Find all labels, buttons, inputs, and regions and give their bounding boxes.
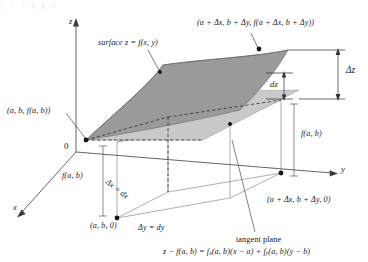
- equation-rhs: (a, b)(y − b): [268, 247, 310, 256]
- far-corner-label: (a + Δx, b + Δy, f(a + Δx, b + Δy)): [197, 19, 314, 28]
- base-near-label: (a, b, 0): [90, 222, 117, 231]
- x-axis-arrowhead: [17, 209, 26, 217]
- point-surface-sample: [158, 70, 162, 74]
- delta-y-label: Δy = dy: [138, 224, 165, 233]
- dz-arrow-up: [282, 71, 286, 78]
- equation-lhs: z − f(a, b) = f: [163, 247, 209, 256]
- y-axis-label: y: [341, 165, 345, 174]
- y-axis-arrowhead: [329, 170, 338, 176]
- point-base-far: [279, 171, 284, 176]
- z-axis-label: z: [69, 17, 72, 26]
- near-corner-label: (a, b, f(a, b)): [7, 107, 50, 116]
- equation-mid: (a, b)(x − a) + f: [212, 247, 266, 256]
- f-ab-right-measure: [290, 104, 298, 176]
- base-far-label: (a + Δx, b + Δy, 0): [267, 196, 331, 205]
- surface-label: surface z = f(x, y): [98, 39, 158, 48]
- delta-z-measure: [288, 50, 345, 99]
- box-bottom-back-edge: [168, 173, 281, 192]
- f-ab-left-label: f(a, b): [62, 172, 83, 181]
- delta-z-arrow-up: [336, 48, 341, 55]
- dz-label: dz: [270, 80, 278, 89]
- x-axis-label: x: [13, 203, 17, 212]
- leader-surface-label: [148, 50, 160, 72]
- origin-label: 0: [64, 142, 69, 151]
- point-far-surface: [257, 47, 262, 52]
- delta-z-label: Δz: [346, 66, 355, 76]
- point-plane-corner: [228, 122, 232, 126]
- z-axis-arrowhead: [73, 18, 79, 27]
- leader-tangent-plane-label: [232, 140, 255, 232]
- x-axis-line: [22, 152, 76, 212]
- delta-z-arrow-down: [336, 94, 341, 101]
- f-ab-right-label: f(a, b): [301, 130, 322, 139]
- tangent-plane-equation: z − f(a, b) = fx(a, b)(x − a) + fy(a, b)…: [163, 248, 310, 257]
- differential-approximation-figure: y y y g g y: [0, 0, 368, 262]
- box-bottom-front-edge: [117, 198, 230, 218]
- point-base-near: [115, 216, 120, 221]
- tangent-plane-label: tangent plane: [236, 236, 281, 245]
- leader-far-corner-label: [251, 33, 258, 48]
- point-near-surface: [84, 138, 89, 143]
- y-axis-line: [76, 152, 332, 173]
